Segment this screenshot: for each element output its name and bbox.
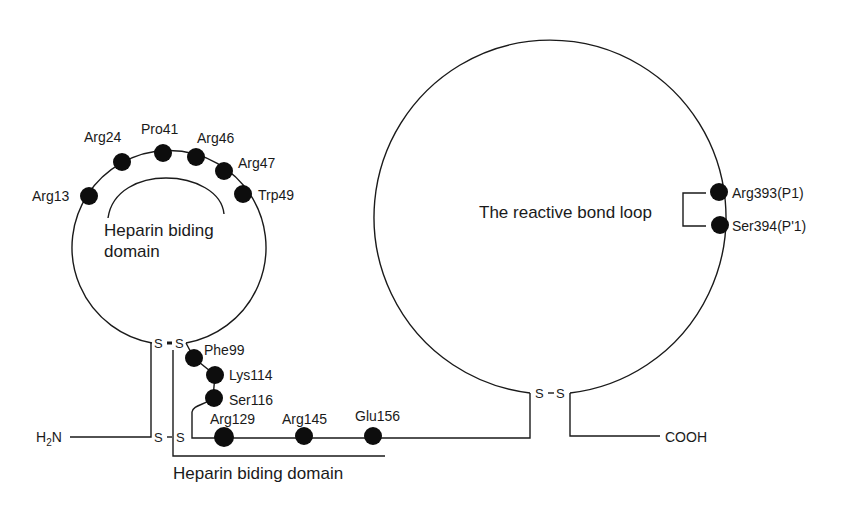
residue-label-arg393: Arg393(P1) [732,185,804,201]
residue-dot-ser394 [711,216,729,234]
residue-label-arg145: Arg145 [282,411,327,427]
residue-label-arg46: Arg46 [197,130,235,146]
residue-dot-arg24 [113,153,131,171]
sulfur-label: S [154,430,163,445]
sulfur-label: S [556,386,565,401]
small-loop: Heparin biding domain Arg13 Arg24 Pro41 … [32,121,294,343]
linker-domain-label: Heparin biding domain [173,464,343,483]
residue-dot-arg129 [214,427,234,447]
chain-to-c-terminus [570,393,660,436]
residue-label-trp49: Trp49 [258,187,294,203]
residue-dot-arg393 [710,183,728,201]
n-terminus-label: H2N [36,429,62,448]
sulfur-label: S [176,430,185,445]
small-loop-domain-label-line1: Heparin biding [104,221,214,240]
residue-label-arg47: Arg47 [238,155,276,171]
chain-to-n-terminus [70,343,151,437]
residue-dot-glu156 [364,427,382,445]
small-loop-heparin-bracket [108,178,224,218]
large-loop: S S The reactive bond loop Arg393(P1) Se… [374,40,806,401]
residue-label-lys114: Lys114 [229,367,273,383]
reactive-loop-bracket [683,193,706,226]
antithrombin-structure-diagram: Heparin biding domain Arg13 Arg24 Pro41 … [0,0,845,505]
residue-label-glu156: Glu156 [355,408,400,424]
residue-dot-pro41 [154,144,172,162]
residue-dot-phe99 [185,349,203,367]
residue-dot-arg13 [80,187,98,205]
residue-label-arg24: Arg24 [84,129,122,145]
residue-dot-ser116 [205,389,223,407]
reactive-loop-label: The reactive bond loop [479,203,652,222]
sulfur-label: S [535,386,544,401]
small-loop-domain-label-line2: domain [104,242,160,261]
residue-label-ser116: Ser116 [229,392,273,408]
residue-label-pro41: Pro41 [141,121,179,137]
residue-label-arg13: Arg13 [32,188,70,204]
disulfide-bridge-top: S S [154,336,184,351]
residue-dot-arg47 [215,162,233,180]
linker-chain: Phe99 Lys114 Ser116 Arg129 Arg145 Glu156… [173,342,530,483]
residue-dot-arg145 [295,427,313,445]
sulfur-label: S [175,336,184,351]
residue-label-ser394: Ser394(P'1) [732,218,806,234]
residue-dot-arg46 [187,148,205,166]
small-loop-ring [72,151,266,343]
sulfur-label: S [154,336,163,351]
residue-dot-trp49 [234,185,252,203]
c-terminus-label: COOH [665,429,707,445]
residue-dot-lys114 [206,366,224,384]
disulfide-bridge-bottom: S S [154,430,185,445]
residue-label-phe99: Phe99 [204,342,245,358]
residue-label-arg129: Arg129 [210,411,255,427]
